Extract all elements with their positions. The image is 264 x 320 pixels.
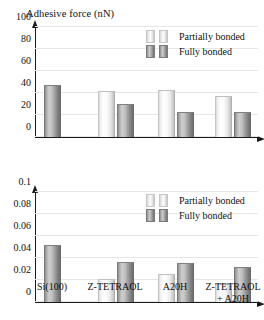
gridline-top-100 <box>35 26 258 27</box>
ytick-label-top-80: 80 <box>21 34 31 44</box>
bar-top-ztetraol-full <box>117 104 134 137</box>
x-label-ztetraol-a20h-line1: Z-TETRAOL <box>206 281 261 292</box>
x-axis-arrow-top <box>257 136 264 142</box>
ytick-label-bottom-01: 0.1 <box>19 177 32 187</box>
ytick-label-bottom-006: 0.06 <box>14 221 32 231</box>
bar-top-ztetraol-a20h-full <box>234 112 251 137</box>
bar-top-ztetraol-a20h-partial <box>215 96 232 137</box>
swatch-light-icon <box>146 30 155 43</box>
legend-swatch-partially-bonded-top <box>146 30 172 43</box>
gridline-top-60 <box>35 70 258 71</box>
ytick-label-top-40: 40 <box>21 78 31 88</box>
ytick-label-top-0: 0 <box>26 122 31 132</box>
x-axis-line-top <box>35 137 258 138</box>
legend-swatch-partially-bonded-bottom <box>146 194 172 207</box>
gridline-bottom-006 <box>35 235 258 236</box>
gridline-top-40 <box>35 92 258 93</box>
gridline-bottom-002 <box>35 279 258 280</box>
ytick-label-top-60: 60 <box>21 56 31 66</box>
ytick-label-bottom-008: 0.08 <box>14 199 32 209</box>
legend-bottom: Partially bonded Fully bonded <box>146 194 245 224</box>
legend-label-partially-bonded-top: Partially bonded <box>179 31 245 42</box>
swatch-light-icon <box>159 194 168 207</box>
swatch-dark-icon <box>159 209 168 222</box>
swatch-light-icon <box>146 194 155 207</box>
legend-swatch-fully-bonded-bottom <box>146 209 172 222</box>
ytick-label-bottom-0: 0 <box>26 287 31 297</box>
legend-item-partially-bonded-bottom: Partially bonded <box>146 194 245 207</box>
x-axis-labels: Si(100) Z-TETRAOL A20H Z-TETRAOL + A20H <box>35 281 258 317</box>
adhesive-force-chart: Adhesive force (nN) 0 20 40 60 80 100 <box>0 0 264 158</box>
legend-item-partially-bonded-top: Partially bonded <box>146 30 245 43</box>
swatch-dark-icon <box>146 209 155 222</box>
legend-label-fully-bonded-top: Fully bonded <box>179 46 232 57</box>
legend-top: Partially bonded Fully bonded <box>146 30 245 60</box>
x-label-ztetraol-a20h: Z-TETRAOL + A20H <box>206 281 261 304</box>
bar-top-a20h-full <box>177 112 194 137</box>
swatch-light-icon <box>159 30 168 43</box>
bar-top-a20h-partial <box>158 90 175 137</box>
bar-top-ztetraol-partial <box>98 91 115 137</box>
x-label-ztetraol-a20h-line2: + A20H <box>206 293 261 305</box>
swatch-dark-icon <box>146 45 155 58</box>
gridline-bottom-01 <box>35 191 258 192</box>
legend-label-partially-bonded-bottom: Partially bonded <box>179 195 245 206</box>
ytick-label-top-20: 20 <box>21 100 31 110</box>
gridline-bottom-004 <box>35 257 258 258</box>
legend-item-fully-bonded-top: Fully bonded <box>146 45 245 58</box>
ytick-label-bottom-004: 0.04 <box>14 243 32 253</box>
y-axis-line-top <box>35 27 36 138</box>
ytick-label-bottom-002: 0.02 <box>14 265 32 275</box>
bar-top-si100-full <box>44 85 61 137</box>
x-label-ztetraol: Z-TETRAOL <box>88 281 143 293</box>
swatch-dark-icon <box>159 45 168 58</box>
ytick-label-top-100: 100 <box>16 12 31 22</box>
legend-label-fully-bonded-bottom: Fully bonded <box>179 210 232 221</box>
legend-item-fully-bonded-bottom: Fully bonded <box>146 209 245 222</box>
x-label-a20h: A20H <box>163 281 187 293</box>
legend-swatch-fully-bonded-top <box>146 45 172 58</box>
y-axis-title-top: Adhesive force (nN) <box>26 8 114 19</box>
x-label-si100: Si(100) <box>37 281 67 293</box>
